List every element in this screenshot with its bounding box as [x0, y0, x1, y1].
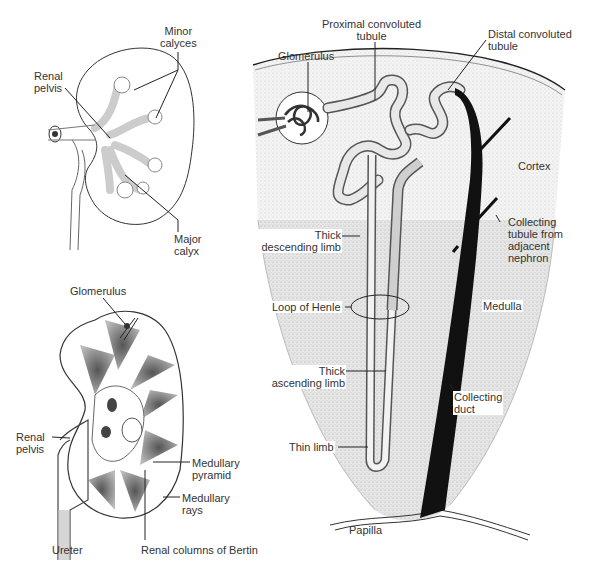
label-thick-descending-limb: Thick descending limb [256, 229, 342, 253]
label-ureter: Ureter [52, 544, 83, 556]
nephron-drawing [253, 40, 565, 540]
label-glomerulus-nephron: Glomerulus [278, 50, 334, 62]
label-collecting-duct: Collecting duct [453, 391, 503, 415]
label-thin-limb: Thin limb [288, 441, 335, 453]
label-loop-of-henle: Loop of Henle [271, 301, 342, 313]
label-glomerulus-section: Glomerulus [70, 285, 126, 297]
label-medulla: Medulla [482, 300, 523, 312]
label-renal-columns-of-bertin: Renal columns of Bertin [141, 544, 258, 556]
label-medullary-pyramid: Medullary pyramid [192, 457, 240, 481]
label-cortex: Cortex [518, 160, 550, 172]
label-major-calyx: Major calyx [174, 233, 202, 257]
label-distal-convoluted-tubule: Distal convoluted tubule [488, 28, 572, 52]
label-renal-pelvis-section: Renal pelvis [16, 431, 45, 455]
label-papilla: Papilla [349, 524, 382, 536]
label-minor-calyces: Minor calyces [160, 25, 197, 49]
label-thick-ascending-limb: Thick ascending limb [266, 365, 346, 389]
label-medullary-rays: Medullary rays [182, 492, 230, 516]
label-collecting-tubule-from-adjacent-nephron: Collecting tubule from adjacent nephron [508, 216, 563, 264]
label-proximal-convoluted-tubule: Proximal convoluted tubule [322, 18, 421, 42]
kidney-exterior-drawing [48, 48, 194, 250]
kidney-section-drawing [52, 298, 190, 560]
label-renal-pelvis-exterior: Renal pelvis [34, 70, 63, 94]
